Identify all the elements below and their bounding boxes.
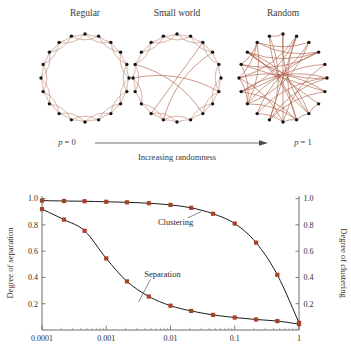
network-node (41, 90, 44, 93)
panel-title-regular: Regular (70, 8, 101, 18)
data-point-marker (147, 201, 151, 205)
annotation-separation: Separation (144, 269, 181, 279)
data-point-marker (104, 256, 108, 260)
data-point-marker (82, 199, 86, 203)
x-tick-label: 0.0001 (31, 334, 53, 343)
network-node (48, 50, 51, 53)
x-tick-label: 1 (297, 334, 301, 343)
network-node (255, 112, 258, 115)
data-point-marker (62, 218, 66, 222)
network-node (140, 102, 143, 105)
panel-title-random: Random (267, 8, 300, 18)
network-node (239, 90, 242, 93)
annotation-clustering: Clustering (158, 217, 194, 227)
network-node (325, 76, 328, 79)
network-node (162, 118, 165, 121)
network-node (48, 102, 51, 105)
data-point-marker (275, 273, 279, 277)
y-tick-label: 0.2 (28, 300, 38, 309)
network-node (125, 90, 128, 93)
x-tick-label: 0.001 (97, 334, 115, 343)
data-point-marker (233, 221, 237, 225)
network-node (119, 102, 122, 105)
data-point-marker (211, 313, 215, 317)
data-point-marker (297, 322, 301, 326)
network-node (189, 34, 192, 37)
y2-tick-label: 0.8 (304, 221, 314, 230)
network-node (127, 76, 130, 79)
network-node (246, 102, 249, 105)
network-node (162, 34, 165, 37)
x-tick-label: 0.01 (164, 334, 178, 343)
network-node (70, 118, 73, 121)
y-axis-label: Degree of separation (5, 227, 15, 299)
network-node (41, 63, 44, 66)
y-tick-label: 0.8 (28, 221, 38, 230)
network-node (109, 112, 112, 115)
network-node (317, 102, 320, 105)
network-node (83, 32, 86, 35)
y-tick-label: 1.0 (28, 194, 38, 203)
network-node (281, 32, 284, 35)
network-node (239, 63, 242, 66)
data-point-marker (275, 319, 279, 323)
network-node (323, 90, 326, 93)
network-node (125, 63, 128, 66)
arrow-caption: Increasing randomness (138, 152, 216, 162)
data-point-marker (125, 200, 129, 204)
y-tick-label: 0.6 (28, 247, 38, 256)
network-node (307, 41, 310, 44)
data-point-marker (189, 206, 193, 210)
y2-tick-label: 0.2 (304, 300, 314, 309)
network-node (83, 120, 86, 123)
data-point-marker (147, 294, 151, 298)
panel-title-small-world: Small world (154, 8, 201, 18)
network-node (175, 120, 178, 123)
network-node (268, 118, 271, 121)
network-node (97, 118, 100, 121)
data-point-marker (211, 212, 215, 216)
network-node (201, 112, 204, 115)
network-node (109, 41, 112, 44)
network-node (119, 50, 122, 53)
network-node (57, 112, 60, 115)
network-node (133, 90, 136, 93)
y2-tick-label: 0.6 (304, 247, 314, 256)
network-node (211, 50, 214, 53)
network-node (217, 63, 220, 66)
network-node (149, 112, 152, 115)
network-node (268, 34, 271, 37)
data-point-marker (254, 241, 258, 245)
data-point-marker (168, 203, 172, 207)
y2-axis-label: Degree of clustering (339, 228, 349, 298)
network-node (70, 34, 73, 37)
network-node (133, 63, 136, 66)
p-label-right: p = 1 (293, 137, 312, 147)
data-point-marker (168, 304, 172, 308)
data-point-marker (254, 317, 258, 321)
data-point-marker (40, 199, 44, 203)
y2-tick-label: 0.4 (304, 273, 314, 282)
network-node (175, 32, 178, 35)
network-node (201, 41, 204, 44)
data-point-marker (125, 279, 129, 283)
network-node (237, 76, 240, 79)
data-point-marker (189, 309, 193, 313)
network-node (131, 76, 134, 79)
p-label-left: p = 0 (57, 137, 76, 147)
x-tick-label: 0.1 (230, 334, 240, 343)
network-node (255, 41, 258, 44)
network-node (307, 112, 310, 115)
y2-tick-label: 1.0 (304, 194, 314, 203)
network-node (189, 118, 192, 121)
network-node (219, 76, 222, 79)
data-point-marker (40, 207, 44, 211)
data-point-marker (62, 199, 66, 203)
network-node (211, 102, 214, 105)
network-node (281, 120, 284, 123)
network-node (97, 34, 100, 37)
network-node (149, 41, 152, 44)
data-point-marker (104, 200, 108, 204)
figure-background (0, 0, 351, 353)
watts-strogatz-figure: Regular Small world Random p = 0 p = 1 I… (0, 0, 351, 353)
